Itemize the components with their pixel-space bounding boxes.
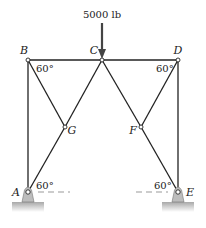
label-f: F: [128, 124, 137, 137]
member-cf: [102, 60, 141, 127]
angle-label-e: 60°: [154, 180, 172, 191]
load-arrow-icon: [98, 23, 106, 59]
joint-b: [26, 58, 30, 62]
joint-g: [63, 125, 67, 129]
label-c: C: [90, 44, 99, 57]
joint-f: [139, 125, 143, 129]
joint-d: [176, 58, 180, 62]
load-label: 5000 lb: [83, 9, 121, 20]
truss-members: [28, 60, 178, 192]
angle-label-a: 60°: [36, 180, 54, 191]
label-a: A: [11, 186, 20, 199]
truss-diagram: 5000 lb B C D G F: [0, 0, 206, 228]
joint-c: [100, 58, 104, 62]
joints: [26, 58, 180, 194]
joint-a: [26, 190, 30, 194]
angle-label-b: 60°: [36, 63, 54, 74]
label-b: B: [19, 44, 28, 57]
joint-e: [176, 190, 180, 194]
label-d: D: [173, 44, 183, 57]
member-gc: [65, 60, 102, 127]
label-g: G: [68, 124, 77, 137]
angle-label-d: 60°: [156, 63, 174, 74]
label-e: E: [185, 186, 194, 199]
